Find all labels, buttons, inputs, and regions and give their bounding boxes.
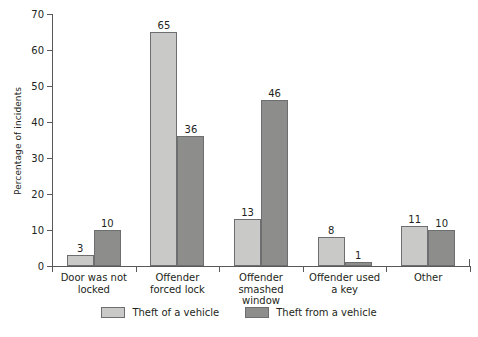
y-tick-label: 60 [31,45,44,56]
bar-value-label: 11 [408,214,421,225]
y-tick [47,158,52,159]
y-tick-label: 10 [31,225,44,236]
y-tick [47,50,52,51]
y-tick-label: 30 [31,153,44,164]
y-axis-label: Percentage of incidents [13,61,23,221]
bar-group: 81 [318,14,372,266]
bar-value-label: 10 [435,218,448,229]
bar-group: 1110 [401,14,455,266]
bar[interactable]: 8 [318,237,345,266]
bar-value-label: 36 [185,124,198,135]
legend-label: Theft from a vehicle [276,307,376,318]
y-tick-label: 40 [31,117,44,128]
bar[interactable]: 65 [150,32,177,266]
bar-group: 310 [67,14,121,266]
bar-chart: Percentage of incidents 010203040506070 … [0,0,478,337]
y-axis-line [52,14,53,266]
x-category-label-line: window [207,295,315,307]
x-category-label-line: a key [291,284,399,296]
plot-area: 010203040506070 31065361346811110 [52,14,470,266]
x-category-label-line: Other [374,272,478,284]
bar-group: 1346 [234,14,288,266]
bar-value-label: 13 [241,207,254,218]
y-tick [47,194,52,195]
bar[interactable]: 11 [401,226,428,266]
bar[interactable]: 10 [428,230,455,266]
legend-item[interactable]: Theft of a vehicle [101,307,219,318]
x-category-label: Other [374,272,478,284]
bar[interactable]: 1 [345,262,372,266]
x-axis-line [52,266,470,267]
y-tick-label: 20 [31,189,44,200]
legend-label: Theft of a vehicle [132,307,219,318]
bar[interactable]: 46 [261,100,288,266]
bar-value-label: 46 [268,88,281,99]
legend-swatch [101,307,125,318]
bar-value-label: 1 [355,250,361,261]
bar[interactable]: 13 [234,219,261,266]
y-tick [47,230,52,231]
bar-value-label: 10 [101,218,114,229]
bar[interactable]: 36 [177,136,204,266]
y-tick-label: 70 [31,9,44,20]
bar-group: 6536 [150,14,204,266]
bar[interactable]: 10 [94,230,121,266]
legend-item[interactable]: Theft from a vehicle [245,307,376,318]
bar-value-label: 8 [328,225,334,236]
y-tick-label: 50 [31,81,44,92]
bar-value-label: 3 [77,243,83,254]
y-tick [47,122,52,123]
bar[interactable]: 3 [67,255,94,266]
y-tick-label: 0 [38,261,44,272]
y-tick [47,86,52,87]
legend-swatch [245,307,269,318]
y-tick [47,14,52,15]
bar-value-label: 65 [158,20,171,31]
chart-legend: Theft of a vehicleTheft from a vehicle [0,307,478,318]
